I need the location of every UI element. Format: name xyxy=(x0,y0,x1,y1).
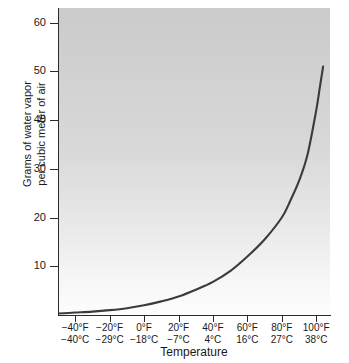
x-axis-tick xyxy=(179,315,180,322)
y-axis-tick-label: 60 xyxy=(16,16,46,29)
x-axis-tick xyxy=(144,315,145,322)
y-axis-title: Grams of water vapor per cubic meter of … xyxy=(20,54,48,214)
x-axis-tick xyxy=(110,315,111,322)
x-axis-tick xyxy=(75,315,76,322)
x-tick-label-fahrenheit: 100°F xyxy=(293,322,339,334)
x-axis-line xyxy=(58,315,331,316)
chart-figure: 605040302010 −40°F−40°C−20°F−29°C0°F−18°… xyxy=(0,0,349,363)
x-axis-tick xyxy=(213,315,214,322)
x-axis-tick xyxy=(247,315,248,322)
x-axis-title: Temperature xyxy=(58,345,330,359)
y-axis-tick: 30 xyxy=(50,169,58,170)
x-axis-tick xyxy=(316,315,317,322)
x-axis-tick-label: 100°F38°C xyxy=(293,322,339,346)
y-axis-title-line-1: Grams of water vapor xyxy=(20,54,34,214)
plot-area xyxy=(58,8,330,315)
y-axis-tick: 60 xyxy=(50,23,58,24)
x-axis-tick xyxy=(282,315,283,322)
y-axis-tick: 10 xyxy=(50,266,58,267)
y-axis-tick: 40 xyxy=(50,120,58,121)
y-axis-tick-label: 10 xyxy=(16,259,46,272)
y-axis-tick: 20 xyxy=(50,218,58,219)
y-axis-title-line-2: per cubic meter of air xyxy=(34,54,48,214)
y-axis-line xyxy=(58,8,59,316)
vapor-capacity-curve xyxy=(58,8,330,315)
y-axis-tick: 50 xyxy=(50,71,58,72)
